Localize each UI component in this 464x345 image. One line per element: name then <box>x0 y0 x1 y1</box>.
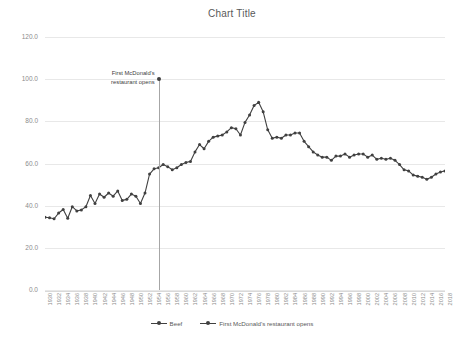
x-axis-tick-label: 1952 <box>147 293 153 305</box>
x-axis-tick-label: 1988 <box>311 293 317 305</box>
x-axis-tick-label: 1938 <box>83 293 89 305</box>
chart-title: Chart Title <box>0 8 464 19</box>
x-axis-tick-label: 1954 <box>156 293 162 305</box>
x-axis-tick-label: 2010 <box>411 293 417 305</box>
y-axis-tick-label: 20.0 <box>0 244 38 251</box>
x-axis-tick-label: 1958 <box>174 293 180 305</box>
x-axis-tick-label: 1942 <box>102 293 108 305</box>
x-axis-tick-label: 2008 <box>402 293 408 305</box>
x-axis-tick-label: 1970 <box>229 293 235 305</box>
x-axis-tick-label: 1934 <box>65 293 71 305</box>
x-axis-tick-label: 1974 <box>247 293 253 305</box>
legend-label-mcdonalds: First McDonald's restaurant opens <box>219 320 313 327</box>
x-axis-tick-label: 1994 <box>338 293 344 305</box>
x-axis-tick-label: 1932 <box>56 293 62 305</box>
y-axis-tick-label: 0.0 <box>0 286 38 293</box>
x-axis-tick-label: 1960 <box>183 293 189 305</box>
x-axis-tick-label: 1996 <box>347 293 353 305</box>
x-axis-tick-label: 1936 <box>74 293 80 305</box>
x-axis-ticks: 1930193219341936193819401942194419461948… <box>45 293 445 323</box>
legend-marker-icon <box>151 321 167 327</box>
x-axis-tick-label: 2002 <box>374 293 380 305</box>
x-axis-tick-label: 2006 <box>392 293 398 305</box>
legend-item-mcdonalds[interactable]: First McDonald's restaurant opens <box>200 320 313 327</box>
annotation-line1: First McDonald's <box>89 69 155 77</box>
annotation-line <box>159 79 160 290</box>
y-axis-tick-label: 80.0 <box>0 117 38 124</box>
x-axis-tick-label: 2014 <box>429 293 435 305</box>
y-axis-tick-label: 100.0 <box>0 75 38 82</box>
annotation-line2: restaurant opens <box>89 78 155 86</box>
x-axis-tick-label: 2016 <box>438 293 444 305</box>
x-axis-tick-label: 1946 <box>120 293 126 305</box>
x-axis-tick-label: 1964 <box>202 293 208 305</box>
x-axis-tick-label: 1978 <box>265 293 271 305</box>
chart-container: Chart Title 0.020.040.060.080.0100.0120.… <box>0 0 464 345</box>
y-axis-tick-label: 60.0 <box>0 160 38 167</box>
x-axis-tick-label: 1930 <box>47 293 53 305</box>
x-axis-line <box>45 291 445 292</box>
legend-label-beef: Beef <box>170 320 183 327</box>
x-axis-tick-label: 1990 <box>320 293 326 305</box>
y-axis-tick-label: 120.0 <box>0 33 38 40</box>
annotation-label: First McDonald's restaurant opens <box>89 69 155 86</box>
x-axis-tick-label: 2018 <box>447 293 453 305</box>
x-axis-tick-label: 2000 <box>365 293 371 305</box>
x-axis-tick-label: 1972 <box>238 293 244 305</box>
chart-legend: Beef First McDonald's restaurant opens <box>0 320 464 327</box>
x-axis-tick-label: 1956 <box>165 293 171 305</box>
x-axis-tick-label: 2012 <box>420 293 426 305</box>
x-axis-tick-label: 1944 <box>111 293 117 305</box>
x-axis-tick-label: 1984 <box>292 293 298 305</box>
x-axis-tick-label: 1980 <box>274 293 280 305</box>
x-axis-tick-label: 1992 <box>329 293 335 305</box>
x-axis-tick-label: 2004 <box>383 293 389 305</box>
x-axis-tick-label: 1986 <box>302 293 308 305</box>
x-axis-tick-label: 1950 <box>138 293 144 305</box>
x-axis-tick-label: 1940 <box>92 293 98 305</box>
y-axis-tick-label: 40.0 <box>0 202 38 209</box>
x-axis-tick-label: 1966 <box>211 293 217 305</box>
legend-marker-icon <box>200 321 216 327</box>
legend-item-beef[interactable]: Beef <box>151 320 183 327</box>
x-axis-tick-label: 1948 <box>129 293 135 305</box>
x-axis-tick-label: 1968 <box>220 293 226 305</box>
x-axis-tick-label: 1976 <box>256 293 262 305</box>
x-axis-tick-label: 1962 <box>192 293 198 305</box>
x-axis-tick-label: 1982 <box>283 293 289 305</box>
x-axis-tick-label: 1998 <box>356 293 362 305</box>
